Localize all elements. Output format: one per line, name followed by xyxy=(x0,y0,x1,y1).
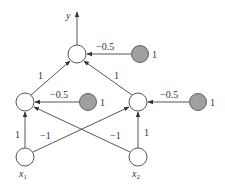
bias-node-hidden-right xyxy=(190,94,207,111)
network-canvas: y 1 1 −0.5 −0.5 −0.5 1 −1 −1 1 1 1 1 x1 … xyxy=(0,0,225,192)
bias-node-output xyxy=(132,46,149,63)
input-label-x1: x1 xyxy=(18,168,27,181)
weight-hr-out: 1 xyxy=(114,70,119,81)
weight-bias-hl: −0.5 xyxy=(50,89,68,100)
bias-label-output: 1 xyxy=(152,49,157,60)
input-label-x2: x2 xyxy=(131,168,140,181)
weight-x2-hl: −1 xyxy=(110,130,121,141)
edge-hr-out xyxy=(84,61,132,95)
input-node-x1 xyxy=(16,148,34,166)
output-node xyxy=(68,45,86,63)
weight-x1-hl: 1 xyxy=(15,129,20,140)
output-label: y xyxy=(65,10,71,21)
weight-x1-hr: −1 xyxy=(40,130,51,141)
bias-label-hidden-right: 1 xyxy=(210,97,215,108)
hidden-node-right xyxy=(129,93,147,111)
weight-x2-hr: 1 xyxy=(144,127,149,138)
weight-bias-out: −0.5 xyxy=(96,41,114,52)
hidden-node-left xyxy=(16,93,34,111)
bias-node-hidden-left xyxy=(80,94,97,111)
input-node-x2 xyxy=(129,148,147,166)
bias-label-hidden-left: 1 xyxy=(100,97,105,108)
weight-bias-hr: −0.5 xyxy=(160,89,178,100)
weight-hl-out: 1 xyxy=(38,70,43,81)
neural-network-diagram: y 1 1 −0.5 −0.5 −0.5 1 −1 −1 1 1 1 1 x1 … xyxy=(0,0,225,192)
